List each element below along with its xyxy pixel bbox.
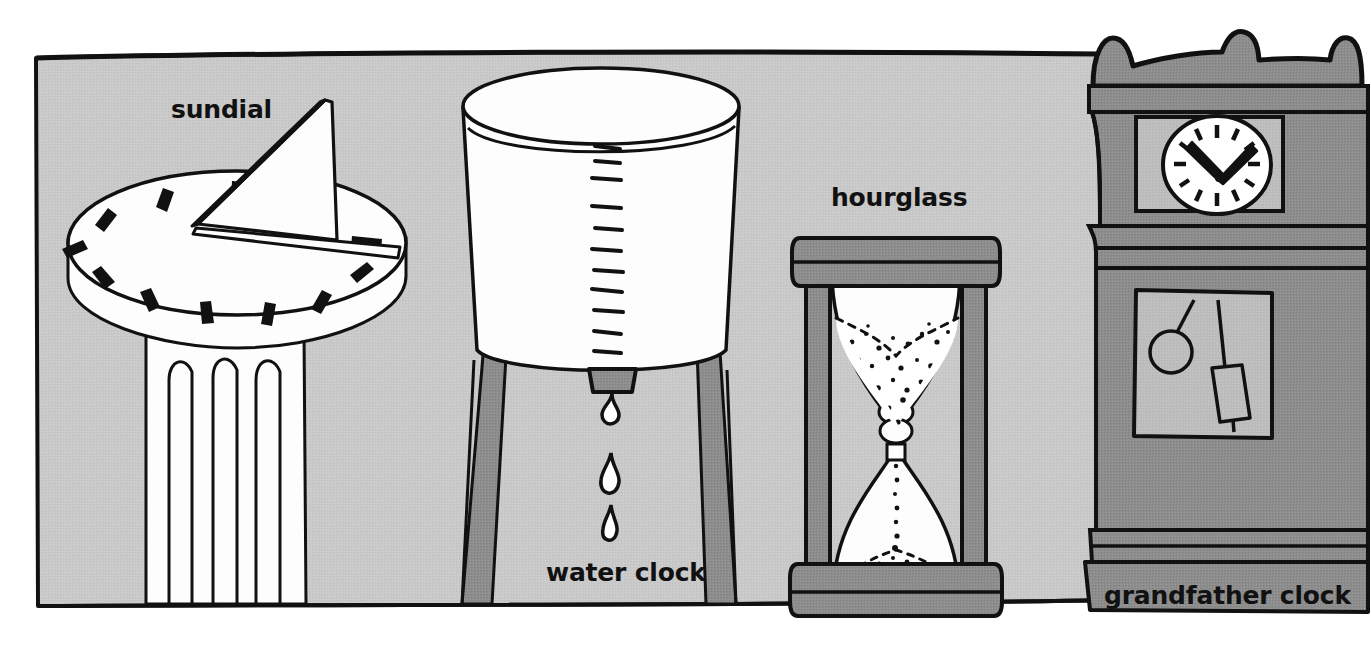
grandfather-clock-cornice bbox=[1089, 86, 1368, 112]
label-grandfather-clock: grandfather clock bbox=[1104, 583, 1351, 608]
grandfather-clock-crown bbox=[1093, 32, 1362, 86]
hourglass-bottom-cap bbox=[790, 564, 1002, 616]
label-sundial: sundial bbox=[171, 97, 272, 122]
illustration-page: sundial water clock hourglass grandfathe… bbox=[0, 0, 1371, 662]
water-clock-spout bbox=[589, 369, 636, 392]
label-water-clock: water clock bbox=[546, 560, 706, 585]
grandfather-clock bbox=[1085, 32, 1368, 612]
hourglass-top-cap bbox=[792, 238, 1000, 286]
grandfather-clock-waist-molding bbox=[1089, 226, 1368, 268]
hourglass bbox=[790, 238, 1002, 616]
label-hourglass: hourglass bbox=[831, 185, 967, 210]
sundial-pedestal bbox=[146, 332, 306, 604]
water-clock-vessel bbox=[463, 68, 739, 370]
grandfather-clock-plinth-molding bbox=[1090, 530, 1368, 562]
grandfather-clock-dial bbox=[1163, 116, 1271, 214]
